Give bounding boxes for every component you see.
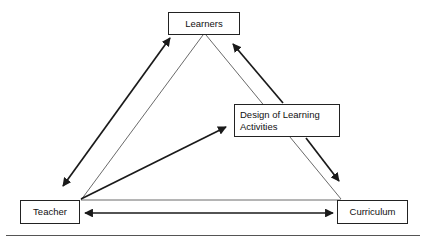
- diagram-canvas: Learners Design of Learning Activities T…: [0, 0, 426, 243]
- connector-triangle-left: [81, 35, 203, 200]
- node-curriculum-label: Curriculum: [347, 206, 399, 217]
- node-design-label: Design of Learning Activities: [235, 109, 323, 131]
- connector-design-learners: [233, 44, 283, 103]
- node-curriculum[interactable]: Curriculum: [337, 200, 408, 224]
- connector-teacher-design: [81, 127, 226, 199]
- node-design-of-learning-activities[interactable]: Design of Learning Activities: [234, 104, 340, 137]
- node-learners[interactable]: Learners: [168, 12, 240, 35]
- node-learners-label: Learners: [182, 18, 226, 29]
- node-teacher[interactable]: Teacher: [20, 200, 80, 224]
- connector-design-curriculum: [306, 138, 339, 181]
- connector-teacher-learners: [63, 38, 170, 186]
- node-teacher-label: Teacher: [30, 206, 70, 217]
- bottom-divider-rule: [6, 235, 420, 236]
